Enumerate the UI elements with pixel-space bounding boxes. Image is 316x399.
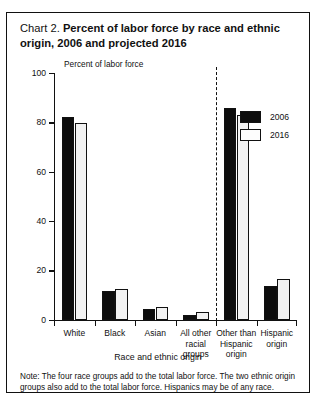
bar-2006-all-other-racial-groups <box>183 315 196 320</box>
y-axis-tick-label: 0 <box>41 315 46 324</box>
y-axis-tick-label: 60 <box>36 167 46 176</box>
legend-item-2016: 2016 <box>240 126 289 144</box>
y-axis-tick <box>49 73 54 74</box>
bar-2016-black <box>115 289 128 319</box>
y-axis-tick <box>49 172 54 173</box>
bar-2016-all-other-racial-groups <box>196 312 209 319</box>
y-axis-tick-label: 40 <box>36 217 46 226</box>
page-title: Chart 2. Percent of labor force by race … <box>20 21 292 50</box>
bar-2006-black <box>102 291 115 319</box>
y-axis-line <box>54 73 55 321</box>
x-axis-category-label: Hispanic origin <box>250 328 305 349</box>
legend-swatch-2006-icon <box>240 111 261 123</box>
bar-2016-hispanic-origin <box>277 279 290 319</box>
y-axis-tick-label: 100 <box>32 69 46 78</box>
y-axis-tick <box>49 122 54 123</box>
bar-2006-other-than-hispanic-origin <box>224 108 237 320</box>
x-axis-tick <box>135 321 136 326</box>
bar-2006-asian <box>143 309 156 320</box>
y-axis-tick-label: 80 <box>36 118 46 127</box>
bar-2006-white <box>62 117 75 319</box>
x-axis-title: Race and ethnic origin <box>7 352 309 362</box>
y-axis-title: Percent of labor force <box>64 59 143 69</box>
legend-label-2006: 2006 <box>270 112 289 122</box>
y-axis-tick-label: 20 <box>36 266 46 275</box>
chart-note: Note: The four race groups add to the to… <box>20 372 298 394</box>
x-axis-tick <box>176 321 177 326</box>
x-axis-tick <box>296 321 297 326</box>
group-divider-line <box>216 67 217 321</box>
x-axis-tick <box>216 321 217 326</box>
chart-figure: Chart 2. Percent of labor force by race … <box>6 12 310 393</box>
bar-2016-other-than-hispanic-origin <box>237 115 250 320</box>
y-axis-tick <box>49 270 54 271</box>
x-axis-tick <box>54 321 55 326</box>
bar-2006-hispanic-origin <box>264 286 277 320</box>
chart-legend: 2006 2016 <box>240 108 289 144</box>
x-axis-tick <box>95 321 96 326</box>
x-axis-tick <box>257 321 258 326</box>
legend-label-2016: 2016 <box>270 130 289 140</box>
chart-title-prefix: Chart 2. <box>20 22 63 34</box>
legend-item-2006: 2006 <box>240 108 289 126</box>
bar-2016-asian <box>156 307 169 320</box>
bar-2016-white <box>75 123 88 319</box>
y-axis-tick <box>49 221 54 222</box>
legend-swatch-2016-icon <box>240 129 261 141</box>
